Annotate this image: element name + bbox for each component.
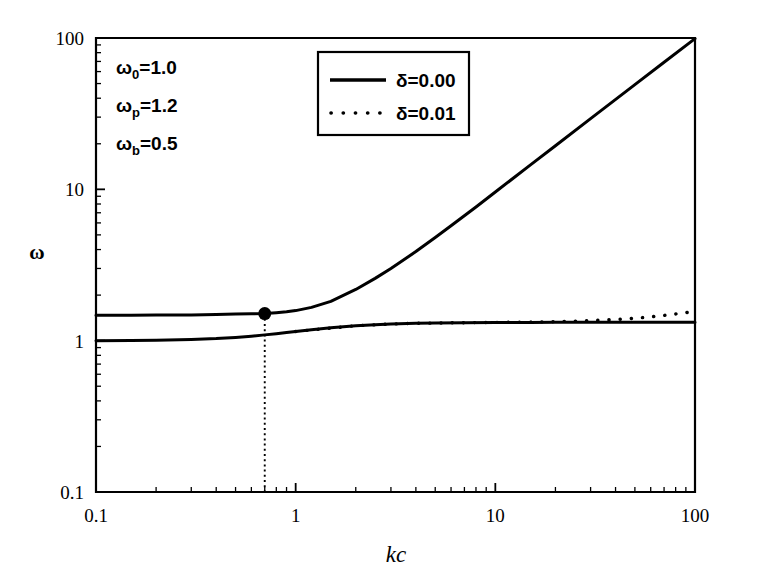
annotation-omega-0-subscript: 0 [132, 67, 139, 82]
dispersion-chart: 0.1110100 0.1110100 ω kc ω0=1.0 ωp=1.2 ω… [0, 0, 759, 586]
annotation-omega-b-value: =0.5 [140, 133, 178, 154]
annotation-omega-b-subscript: b [132, 143, 140, 158]
y-tick-label-1: 1 [75, 331, 85, 352]
y-axis-major-ticks [96, 38, 105, 492]
annotation-omega-0: ω0=1.0 [116, 57, 177, 82]
annotation-omega-p-symbol: ω [116, 95, 132, 116]
x-axis-major-ticks [96, 483, 695, 492]
y-tick-label-3: 100 [56, 28, 85, 49]
y-tick-label-2: 10 [65, 179, 84, 200]
y-tick-label-0: 0.1 [60, 482, 84, 503]
annotation-omega-p-subscript: p [132, 105, 140, 120]
x-tick-label-1: 1 [291, 505, 301, 526]
annotation-omega-0-value: =1.0 [139, 57, 177, 78]
legend-label-0: δ=0.00 [396, 70, 456, 91]
annotation-omega-b-symbol: ω [116, 133, 132, 154]
x-tick-label-0: 0.1 [84, 505, 108, 526]
x-tick-label-3: 100 [681, 505, 710, 526]
x-tick-label-2: 10 [486, 505, 505, 526]
annotation-omega-0-symbol: ω [116, 57, 132, 78]
x-axis-title: kc [386, 542, 406, 567]
annotation-omega-p-value: =1.2 [140, 95, 178, 116]
x-axis-tick-labels: 0.1110100 [84, 505, 709, 526]
legend-label-1: δ=0.01 [396, 103, 456, 124]
y-axis-title: ω [29, 240, 44, 264]
y-axis-tick-labels: 0.1110100 [56, 28, 85, 503]
parameter-annotations: ω0=1.0 ωp=1.2 ωb=0.5 [116, 57, 178, 158]
figure-container: 0.1110100 0.1110100 ω kc ω0=1.0 ωp=1.2 ω… [0, 0, 759, 586]
legend: δ=0.00 δ=0.01 [318, 52, 469, 135]
annotation-omega-p: ωp=1.2 [116, 95, 178, 120]
crossing-point-marker [258, 307, 271, 320]
annotation-omega-b: ωb=0.5 [116, 133, 178, 158]
